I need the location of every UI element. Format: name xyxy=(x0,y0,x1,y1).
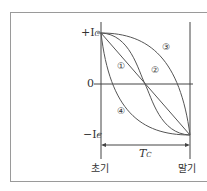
curve-label-4: ④ xyxy=(117,106,125,116)
minus-i-text: −I xyxy=(83,128,97,141)
minus-i-sub: C xyxy=(97,132,102,140)
arrow-head-left-icon xyxy=(101,143,106,147)
label-period: TC xyxy=(139,147,152,160)
arrow-head-right-icon xyxy=(185,143,190,147)
curve-label-2: ② xyxy=(151,65,159,75)
label-plus-ic: +IC xyxy=(81,26,100,39)
plus-i-text: +I xyxy=(81,26,95,39)
curve-label-1: ① xyxy=(117,61,125,71)
label-end: 말기 xyxy=(178,160,196,175)
period-sub: C xyxy=(146,151,151,159)
label-start: 초기 xyxy=(91,160,109,175)
plus-i-sub: C xyxy=(95,30,100,38)
label-minus-ic: −IC xyxy=(83,128,102,141)
label-zero: 0 xyxy=(87,77,94,90)
curve-label-3: ③ xyxy=(162,42,170,52)
